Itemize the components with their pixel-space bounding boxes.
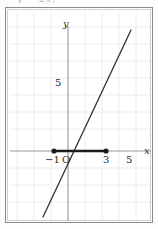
figure-root: y = 2x, bbox=[0, 0, 158, 229]
x-tick-label-5: 5 bbox=[126, 155, 132, 165]
origin-label: O bbox=[62, 155, 70, 165]
endpoint-dot-left bbox=[51, 148, 56, 153]
grid-lines bbox=[10, 12, 150, 220]
clipped-caption-text: y = 2x, bbox=[17, 0, 56, 3]
y-axis-label: y bbox=[63, 19, 69, 29]
x-axis-label: x bbox=[144, 146, 150, 156]
figure-frame: y x 5 −1 O 3 5 bbox=[5, 7, 153, 223]
graph-canvas bbox=[6, 8, 154, 224]
line-y-equals-2x bbox=[43, 30, 131, 217]
endpoint-dot-right bbox=[103, 148, 108, 153]
x-tick-label-minus1: −1 bbox=[45, 155, 60, 165]
plot-area: y x 5 −1 O 3 5 bbox=[6, 8, 154, 224]
y-tick-label-5: 5 bbox=[55, 78, 61, 88]
x-tick-label-3: 3 bbox=[103, 155, 109, 165]
